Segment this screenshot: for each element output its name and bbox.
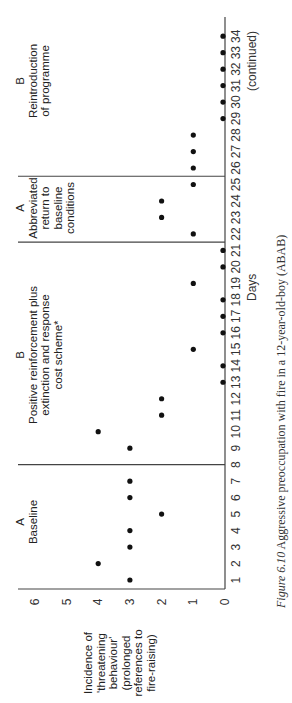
data-point bbox=[127, 528, 132, 533]
data-point bbox=[220, 50, 225, 55]
data-point bbox=[127, 479, 132, 484]
x-tick-label: 33 bbox=[229, 46, 243, 60]
phase-name-line: of programme bbox=[39, 31, 52, 131]
x-axis-label: Days bbox=[245, 274, 259, 301]
y-tick-label: 2 bbox=[155, 598, 169, 605]
phase-code: B bbox=[14, 275, 27, 435]
y-axis-label: Incidence of 'threatening behaviour' (pr… bbox=[82, 623, 157, 703]
phase-name: Baseline bbox=[27, 477, 40, 567]
data-point bbox=[159, 396, 164, 401]
phase-label-reintroduction: B Reintroduction of programme bbox=[14, 31, 52, 131]
phase-label-baseline: A Baseline bbox=[14, 477, 39, 567]
data-point bbox=[220, 330, 225, 335]
x-tick-label: 34 bbox=[229, 29, 243, 43]
data-point bbox=[191, 149, 196, 154]
data-points bbox=[96, 34, 226, 583]
continued-note: (continued) bbox=[245, 31, 259, 91]
y-axis-ticks: 0123456 bbox=[28, 598, 232, 605]
x-tick-label: 31 bbox=[229, 79, 243, 93]
figure-caption: Figure 6.10 Aggressive preoccupation wit… bbox=[274, 235, 289, 608]
data-point bbox=[191, 132, 196, 137]
figure-title: Aggressive preoccupation with fire in a … bbox=[274, 235, 288, 550]
data-point bbox=[191, 231, 196, 236]
phase-name-line: extinction and response bbox=[39, 275, 52, 435]
x-tick-label: 8 bbox=[229, 461, 243, 468]
phase-code: A bbox=[14, 175, 27, 241]
x-tick-label: 23 bbox=[229, 210, 243, 224]
data-point bbox=[220, 297, 225, 302]
x-tick-label: 13 bbox=[229, 375, 243, 389]
x-tick-label: 2 bbox=[229, 560, 243, 567]
data-point bbox=[220, 248, 225, 253]
data-point bbox=[159, 198, 164, 203]
x-tick-label: 6 bbox=[229, 494, 243, 501]
phase-name-line: Positive reinforcement plus bbox=[27, 275, 40, 435]
data-point bbox=[220, 67, 225, 72]
y-axis-label-line: Incidence of bbox=[82, 623, 95, 703]
x-tick-label: 1 bbox=[229, 576, 243, 583]
x-tick-label: 10 bbox=[229, 425, 243, 439]
phase-label-intervention: B Positive reinforcement plus extinction… bbox=[14, 275, 64, 435]
y-axis-label-line: 'threatening bbox=[95, 623, 108, 703]
chart-stage: 1234567891011121314151617181920212223242… bbox=[0, 0, 292, 703]
data-point bbox=[220, 99, 225, 104]
y-tick-label: 4 bbox=[91, 598, 105, 605]
data-point bbox=[127, 446, 132, 451]
x-tick-label: 9 bbox=[229, 445, 243, 452]
x-tick-label: 26 bbox=[229, 161, 243, 175]
data-point bbox=[220, 380, 225, 385]
x-tick-label: 20 bbox=[229, 260, 243, 274]
phase-name-line: Abbreviated bbox=[27, 175, 40, 241]
x-tick-label: 30 bbox=[229, 95, 243, 109]
data-point bbox=[191, 182, 196, 187]
x-tick-label: 15 bbox=[229, 342, 243, 356]
x-tick-label: 19 bbox=[229, 276, 243, 290]
data-point bbox=[159, 215, 164, 220]
x-tick-label: 16 bbox=[229, 326, 243, 340]
y-axis-label-line: behaviour' bbox=[107, 623, 120, 703]
data-point bbox=[220, 116, 225, 121]
phase-code: B bbox=[14, 31, 27, 131]
phase-name-line: baseline bbox=[52, 175, 65, 241]
x-tick-label: 4 bbox=[229, 527, 243, 534]
y-tick-label: 5 bbox=[60, 598, 74, 605]
x-tick-label: 28 bbox=[229, 128, 243, 142]
data-point bbox=[159, 413, 164, 418]
data-point bbox=[127, 495, 132, 500]
data-point bbox=[159, 512, 164, 517]
x-tick-label: 27 bbox=[229, 145, 243, 159]
y-tick-label: 6 bbox=[28, 598, 42, 605]
phase-name-line: return to bbox=[39, 175, 52, 241]
x-tick-label: 21 bbox=[229, 243, 243, 257]
y-tick-label: 0 bbox=[218, 598, 232, 605]
data-point bbox=[191, 347, 196, 352]
y-tick-label: 1 bbox=[186, 598, 200, 605]
phase-code: A bbox=[14, 477, 27, 567]
y-axis-label-line: references to bbox=[132, 623, 145, 703]
x-tick-label: 3 bbox=[229, 543, 243, 550]
x-tick-label: 22 bbox=[229, 227, 243, 241]
figure-number: Figure 6.10 bbox=[274, 552, 288, 608]
x-axis-ticks: 1234567891011121314151617181920212223242… bbox=[229, 29, 243, 583]
data-point bbox=[220, 314, 225, 319]
x-tick-label: 7 bbox=[229, 477, 243, 484]
x-tick-label: 14 bbox=[229, 359, 243, 373]
phase-name-line: conditions bbox=[64, 175, 77, 241]
y-tick-label: 3 bbox=[123, 598, 137, 605]
phase-label-return-baseline: A Abbreviated return to baseline conditi… bbox=[14, 175, 77, 241]
y-axis-label-line: fire-raising) bbox=[145, 623, 158, 703]
x-tick-label: 29 bbox=[229, 112, 243, 126]
y-axis-label-line: (prolonged bbox=[120, 623, 133, 703]
x-tick-label: 5 bbox=[229, 510, 243, 517]
data-point bbox=[220, 34, 225, 39]
x-tick-label: 25 bbox=[229, 178, 243, 192]
data-point bbox=[127, 544, 132, 549]
data-point bbox=[191, 281, 196, 286]
data-point bbox=[96, 429, 101, 434]
data-point bbox=[220, 83, 225, 88]
x-tick-label: 17 bbox=[229, 309, 243, 323]
x-tick-label: 18 bbox=[229, 293, 243, 307]
data-point bbox=[191, 165, 196, 170]
data-point bbox=[220, 264, 225, 269]
phase-name-line: cost scheme* bbox=[52, 275, 65, 435]
